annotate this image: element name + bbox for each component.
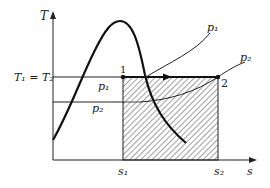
x-axis-arrow-icon	[249, 157, 257, 163]
point-1-marker	[121, 75, 125, 79]
temperature-label: T₁ = T₂	[14, 71, 54, 84]
p2-curve-label: p₂	[240, 51, 251, 64]
p2-line-label: p₂	[92, 102, 103, 115]
point-1-label: 1	[120, 64, 126, 75]
point-2-label: 2	[221, 77, 228, 90]
y-axis-arrow-icon	[50, 11, 56, 19]
x-axis-label: s	[247, 165, 253, 178]
point-2-marker	[216, 75, 220, 79]
p1-isobar	[146, 33, 210, 77]
s1-tick-label: s₁	[118, 165, 128, 178]
hatched-area	[123, 77, 218, 160]
y-axis-label: T	[40, 9, 49, 23]
s2-tick-label: s₂	[214, 165, 224, 178]
p1-line-label: p₁	[98, 80, 109, 93]
ts-diagram: T s T₁ = T₂ p₁ p₂ p₁ p₂ 1 2 s₁ s₂	[0, 0, 270, 188]
p1-curve-label: p₁	[207, 21, 218, 34]
